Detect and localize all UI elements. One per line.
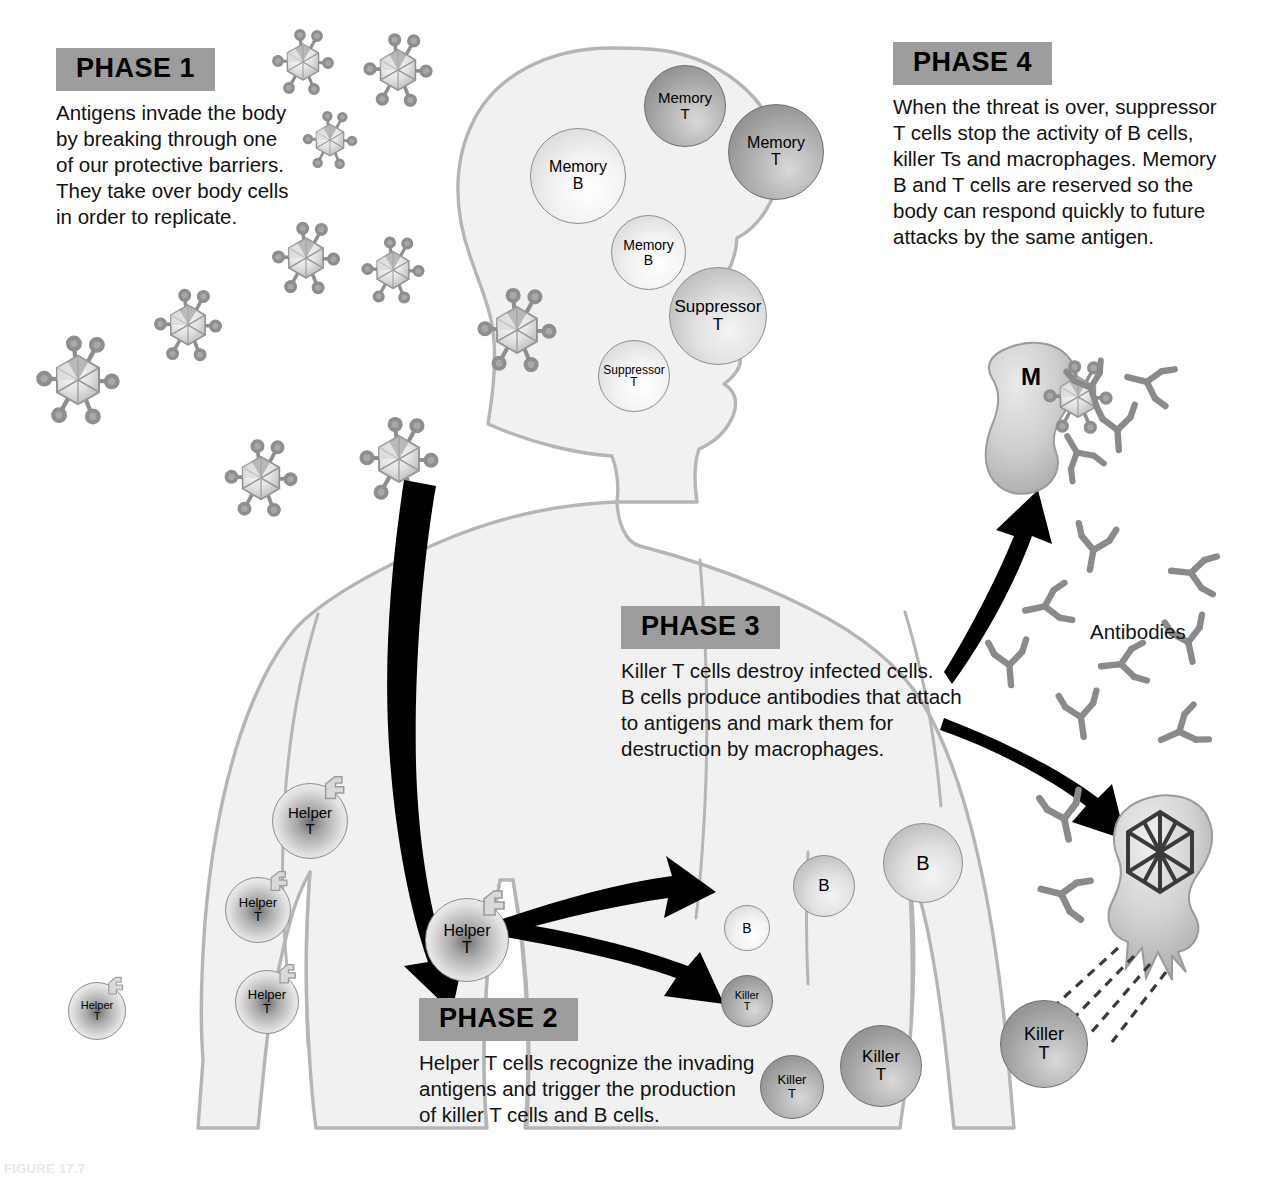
cell-label-line-2: T xyxy=(680,106,689,122)
cell-label-line-1: B xyxy=(818,877,829,895)
b-cell: B xyxy=(883,823,963,903)
virus-particle xyxy=(38,338,117,423)
antibody xyxy=(1021,583,1072,629)
phase-1-text: Antigens invade the body by breaking thr… xyxy=(56,100,316,230)
antibody xyxy=(1153,705,1209,758)
phase-1-tag: PHASE 1 xyxy=(56,48,215,91)
cell-label-line-1: Killer xyxy=(862,1048,900,1066)
helper-t-cell: HelperT xyxy=(272,783,348,859)
cell-label-line-2: T xyxy=(771,152,781,169)
memory-t-cell: MemoryT xyxy=(644,65,726,147)
phase-3-block: PHASE 3 Killer T cells destroy infected … xyxy=(621,606,1021,762)
phase-2-text: Helper T cells recognize the invading an… xyxy=(419,1050,819,1128)
antibody xyxy=(1052,427,1104,481)
infected-cell-destroyed xyxy=(1048,795,1212,1042)
helper-t-cell: HelperT xyxy=(425,898,509,982)
cell-label-line-2: T xyxy=(1039,1044,1050,1063)
memory-t-cell: MemoryT xyxy=(728,104,824,200)
cell-label-line-1: B xyxy=(742,921,751,936)
phase-3-tag: PHASE 3 xyxy=(621,606,780,649)
cell-label-line-1: Killer xyxy=(1024,1025,1064,1044)
killer-t-cell: KillerT xyxy=(721,975,773,1027)
antibody xyxy=(1059,691,1103,740)
phase-3-text: Killer T cells destroy infected cells. B… xyxy=(621,658,1021,762)
cell-label-line-1: Memory xyxy=(549,159,607,176)
cell-label-line-1: Helper xyxy=(239,896,277,910)
cell-label-line-1: Memory xyxy=(747,135,805,152)
antibody xyxy=(1071,523,1116,573)
memory-b-cell: MemoryB xyxy=(530,128,626,224)
helper-t-cell: HelperT xyxy=(235,970,299,1034)
macrophage-label: M xyxy=(1021,363,1041,391)
killer-t-cell: KillerT xyxy=(1000,1000,1088,1088)
phase-1-block: PHASE 1 Antigens invade the body by brea… xyxy=(56,48,316,230)
cell-label-line-1: Memory xyxy=(623,238,674,253)
antibody xyxy=(1036,870,1090,920)
antibody xyxy=(1099,643,1147,685)
cell-label-line-2: T xyxy=(876,1066,886,1084)
virus-particle xyxy=(363,238,423,302)
cell-label-line-1: Suppressor xyxy=(603,364,664,376)
phase-2-tag: PHASE 2 xyxy=(419,998,578,1041)
immune-response-diagram: PHASE 1 Antigens invade the body by brea… xyxy=(0,0,1276,1178)
cell-label-line-1: Killer xyxy=(778,1073,807,1087)
cell-label-line-2: T xyxy=(254,910,262,924)
cell-label-line-2: T xyxy=(788,1087,796,1101)
suppressor-t-cell: SuppressorT xyxy=(598,340,670,412)
helper-t-cell: HelperT xyxy=(225,877,291,943)
memory-b-cell: MemoryB xyxy=(611,215,686,290)
phase-4-block: PHASE 4 When the threat is over, suppres… xyxy=(893,42,1253,250)
phase-4-text: When the threat is over, suppressor T ce… xyxy=(893,94,1253,250)
cell-label-line-2: T xyxy=(462,940,472,957)
phase-4-tag: PHASE 4 xyxy=(893,42,1052,85)
b-cell: B xyxy=(724,905,770,951)
cell-label-line-2: B xyxy=(644,253,653,268)
cell-label-line-2: T xyxy=(713,316,723,334)
cell-label-line-2: T xyxy=(305,821,314,837)
suppressor-t-cell: SuppressorT xyxy=(669,267,767,365)
cell-label-line-1: Helper xyxy=(443,923,490,940)
virus-particle xyxy=(365,35,431,105)
antibodies-label: Antibodies xyxy=(1090,620,1186,644)
killer-t-cell: KillerT xyxy=(760,1055,824,1119)
killer-t-cell: KillerT xyxy=(840,1025,922,1107)
cell-label-line-1: Suppressor xyxy=(675,298,762,316)
cell-label-line-1: Helper xyxy=(288,805,332,821)
cell-label-line-1: Killer xyxy=(735,990,759,1001)
cell-label-line-1: Memory xyxy=(658,90,712,106)
helper-t-cell: HelperT xyxy=(68,982,126,1040)
cell-label-line-2: T xyxy=(744,1001,751,1012)
cell-label-line-2: T xyxy=(263,1002,271,1016)
cell-label-line-2: T xyxy=(630,376,637,388)
macrophage xyxy=(986,343,1175,494)
virus-particle xyxy=(274,224,338,293)
virus-particle xyxy=(226,441,295,515)
antibody xyxy=(1169,552,1217,594)
cell-label-line-1: Helper xyxy=(248,988,286,1002)
b-cell: B xyxy=(793,855,855,917)
cell-label-line-1: B xyxy=(916,853,929,874)
virus-particle xyxy=(156,291,220,360)
cell-label-line-1: Helper xyxy=(81,1000,113,1011)
cell-label-line-2: T xyxy=(94,1011,101,1022)
cell-label-line-2: B xyxy=(573,176,584,193)
figure-caption: FIGURE 17.7 xyxy=(4,1161,85,1176)
